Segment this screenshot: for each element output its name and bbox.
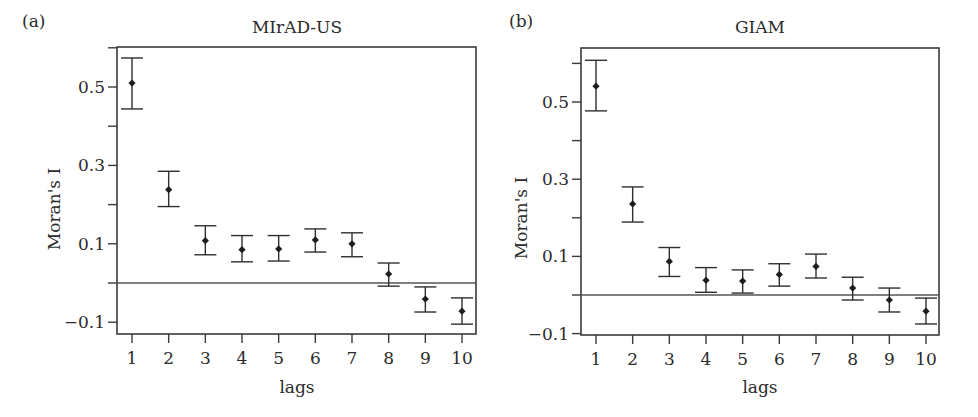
diamond-marker-icon (238, 246, 245, 253)
data-point-lag-3 (658, 248, 680, 277)
data-point-lag-5 (268, 236, 290, 261)
panel-a: (a) MIrAD-US lags Moran's I 0.50.30.1−0.… (22, 11, 476, 397)
data-point-lag-6 (768, 264, 790, 286)
diamond-marker-icon (165, 186, 172, 193)
diamond-marker-icon (702, 277, 709, 284)
data-point-lag-1 (585, 60, 607, 111)
diamond-marker-icon (666, 258, 673, 265)
data-point-lag-5 (732, 270, 754, 293)
y-tick-label: 0.1 (542, 246, 569, 266)
x-tick-label: 4 (237, 348, 248, 368)
diamond-marker-icon (312, 236, 319, 243)
data-point-lag-1 (121, 58, 143, 109)
x-tick-label: 6 (774, 349, 785, 369)
x-tick-label: 1 (591, 349, 602, 369)
y-axis: 0.50.30.1−0.1 (64, 48, 117, 332)
x-tick-label: 9 (420, 348, 431, 368)
diamond-marker-icon (629, 200, 636, 207)
x-tick-label: 9 (884, 349, 895, 369)
data-point-lag-10 (915, 298, 937, 324)
y-tick-label: −0.1 (64, 312, 105, 332)
x-tick-label: 10 (451, 348, 473, 368)
data-series (121, 58, 473, 324)
diamond-marker-icon (812, 263, 819, 270)
y-tick-label: 0.1 (78, 234, 105, 254)
panel-b: (b) GIAM lags Moran's I 0.50.30.1−0.1 12… (509, 11, 939, 397)
data-series (585, 60, 937, 324)
diamond-marker-icon (776, 271, 783, 278)
data-point-lag-9 (414, 287, 436, 312)
data-point-lag-8 (842, 277, 864, 300)
data-point-lag-6 (304, 229, 326, 252)
y-tick-label: 0.5 (78, 77, 105, 97)
x-tick-label: 3 (200, 348, 211, 368)
x-tick-label: 6 (310, 348, 321, 368)
diamond-marker-icon (592, 83, 599, 90)
x-axis: 12345678910 (127, 334, 473, 368)
data-point-lag-7 (805, 254, 827, 278)
x-tick-label: 10 (915, 349, 937, 369)
panel-label: (b) (509, 11, 533, 31)
x-tick-label: 7 (347, 348, 358, 368)
x-tick-label: 1 (127, 348, 138, 368)
diamond-marker-icon (385, 270, 392, 277)
y-axis-label: Moran's I (44, 168, 64, 250)
x-tick-label: 8 (383, 348, 394, 368)
x-axis: 12345678910 (591, 335, 937, 369)
diamond-marker-icon (348, 240, 355, 247)
x-axis-label: lags (279, 377, 314, 397)
x-tick-label: 2 (163, 348, 174, 368)
plot-frame (581, 48, 939, 335)
x-tick-label: 7 (811, 349, 822, 369)
data-point-lag-7 (341, 233, 363, 257)
diamond-marker-icon (275, 245, 282, 252)
y-tick-label: −0.1 (528, 324, 569, 344)
diamond-marker-icon (922, 308, 929, 315)
x-tick-label: 5 (273, 348, 284, 368)
x-tick-label: 3 (664, 349, 675, 369)
data-point-lag-10 (451, 298, 473, 324)
chart-title: GIAM (735, 17, 785, 37)
x-tick-label: 2 (627, 349, 638, 369)
diamond-marker-icon (739, 278, 746, 285)
y-axis: 0.50.30.1−0.1 (528, 63, 581, 343)
x-tick-label: 4 (701, 349, 712, 369)
x-tick-label: 8 (847, 349, 858, 369)
diamond-marker-icon (849, 284, 856, 291)
y-tick-label: 0.5 (542, 92, 569, 112)
data-point-lag-4 (695, 268, 717, 293)
data-point-lag-9 (878, 288, 900, 312)
x-tick-label: 5 (737, 349, 748, 369)
y-tick-label: 0.3 (78, 155, 105, 175)
y-tick-label: 0.3 (542, 169, 569, 189)
diamond-marker-icon (886, 296, 893, 303)
x-axis-label: lags (742, 377, 777, 397)
data-point-lag-4 (231, 236, 253, 262)
diamond-marker-icon (422, 295, 429, 302)
data-point-lag-2 (158, 171, 180, 206)
diamond-marker-icon (202, 237, 209, 244)
y-axis-label: Moran's I (511, 177, 531, 259)
diamond-marker-icon (128, 79, 135, 86)
diamond-marker-icon (458, 308, 465, 315)
panel-label: (a) (22, 11, 45, 31)
data-point-lag-3 (194, 226, 216, 255)
data-point-lag-2 (622, 187, 644, 222)
chart-title: MIrAD-US (252, 17, 342, 37)
figure: (a) MIrAD-US lags Moran's I 0.50.30.1−0.… (0, 0, 978, 417)
